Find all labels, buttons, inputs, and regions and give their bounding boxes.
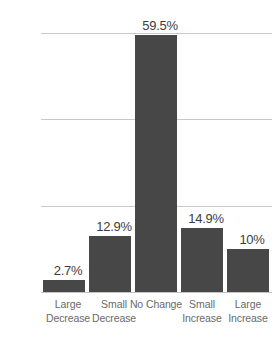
value-label-no-change: 59.5% bbox=[127, 18, 193, 33]
bar-large-increase[interactable] bbox=[227, 249, 269, 292]
value-label-small-decrease: 12.9% bbox=[81, 219, 147, 234]
bar-chart: 60% 40% 20% 0% 2.7% 12.9% 59.5% 14.9% 10… bbox=[0, 0, 276, 349]
bar-large-decrease[interactable] bbox=[43, 280, 85, 292]
bar-no-change[interactable] bbox=[135, 35, 177, 292]
gridline-0-baseline bbox=[41, 292, 272, 293]
value-label-large-decrease: 2.7% bbox=[35, 263, 101, 278]
x-axis-labels: Large Decrease Small Decrease No Change … bbox=[41, 298, 272, 343]
plot-area: 2.7% 12.9% 59.5% 14.9% 10% bbox=[41, 33, 272, 292]
x-label-large-increase-line1: Large bbox=[213, 298, 276, 312]
x-label-large-increase-line2: Increase bbox=[213, 312, 276, 326]
bar-small-increase[interactable] bbox=[181, 228, 223, 292]
value-label-small-increase: 14.9% bbox=[173, 211, 239, 226]
x-label-large-increase: Large Increase bbox=[213, 298, 276, 325]
x-label-small-decrease-line2: Decrease bbox=[79, 312, 149, 326]
value-label-large-increase: 10% bbox=[219, 232, 276, 247]
